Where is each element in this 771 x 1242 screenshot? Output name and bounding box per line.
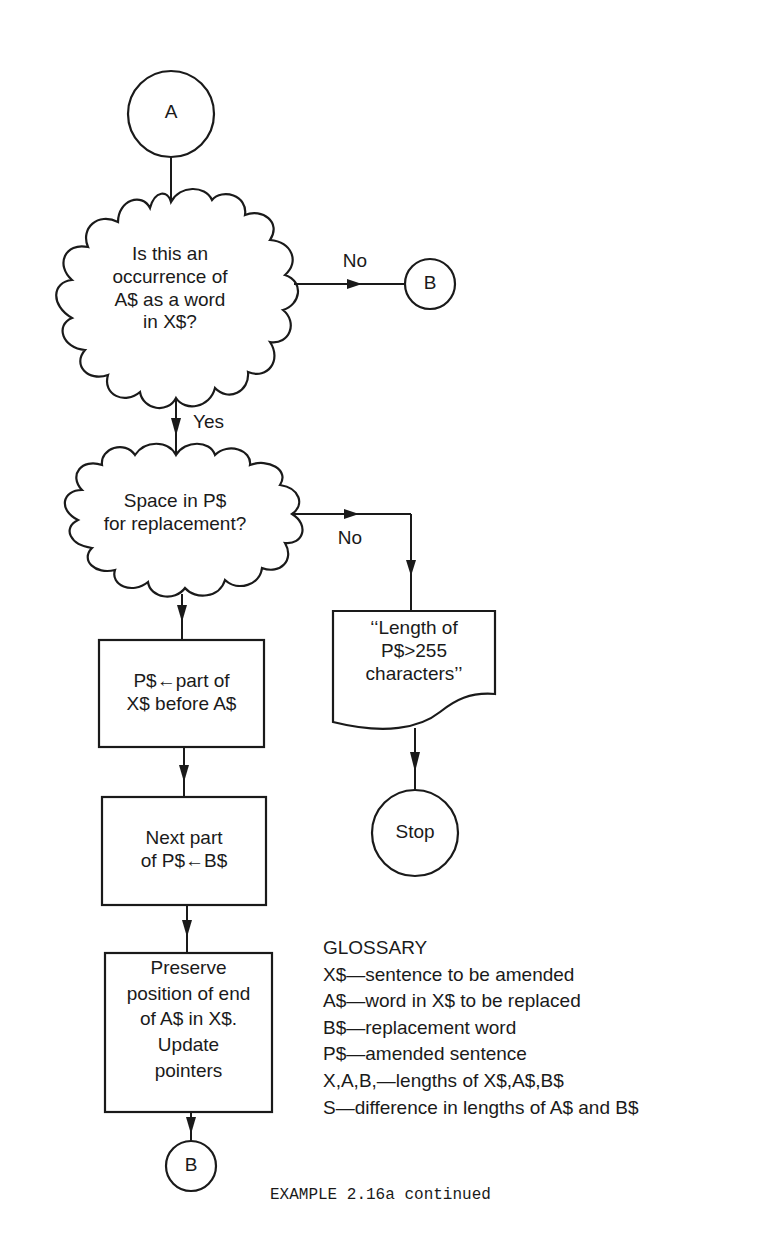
process-preserve-line: position of end	[105, 981, 272, 1007]
output-error-line: ‘‘Length of	[333, 617, 495, 640]
decision-occurrence-line: occurrence of	[90, 266, 250, 289]
connector-b-top-label: B	[415, 272, 445, 295]
edge-label-no-2: No	[330, 527, 370, 550]
terminal-stop-label: Stop	[385, 821, 445, 844]
process-preserve-line: of A$ in X$.	[105, 1006, 272, 1032]
process-preserve-line: Update	[105, 1032, 272, 1058]
process-preserve-line: Preserve	[105, 955, 272, 981]
decision-occurrence-line: Is this an	[90, 243, 250, 266]
glossary-entry: X,A,B,—lengths of X$,A$,B$	[323, 1068, 638, 1095]
edge-label-no-1: No	[335, 250, 375, 273]
process-before-text: P$←part of X$ before A$	[99, 670, 264, 716]
figure-caption: EXAMPLE 2.16a continued	[270, 1186, 491, 1204]
decision-space-text: Space in P$ for replacement?	[85, 490, 265, 536]
glossary-entry: P$—amended sentence	[323, 1041, 638, 1068]
process-preserve-text: Preserve position of end of A$ in X$. Up…	[105, 955, 272, 1083]
process-before-line: X$ before A$	[99, 693, 264, 716]
decision-space-line: for replacement?	[85, 513, 265, 536]
connector-a-label: A	[151, 101, 191, 124]
decision-occurrence-text: Is this an occurrence of A$ as a word in…	[90, 243, 250, 334]
edge-label-yes: Yes	[193, 411, 243, 434]
process-next-line: of P$←B$	[102, 850, 266, 873]
decision-occurrence-line: in X$?	[90, 311, 250, 334]
glossary-entry: S—difference in lengths of A$ and B$	[323, 1095, 638, 1122]
process-next-text: Next part of P$←B$	[102, 827, 266, 873]
decision-space-line: Space in P$	[85, 490, 265, 513]
glossary-title: GLOSSARY	[323, 935, 638, 962]
decision-occurrence-line: A$ as a word	[90, 289, 250, 312]
glossary-entry: X$—sentence to be amended	[323, 962, 638, 989]
output-error-line: P$>255	[333, 640, 495, 663]
connector-b-bottom-label: B	[176, 1154, 206, 1177]
glossary-entry: B$—replacement word	[323, 1015, 638, 1042]
process-before-line: P$←part of	[99, 670, 264, 693]
glossary: GLOSSARY X$—sentence to be amended A$—wo…	[323, 935, 638, 1121]
process-next-line: Next part	[102, 827, 266, 850]
glossary-entry: A$—word in X$ to be replaced	[323, 988, 638, 1015]
output-error-text: ‘‘Length of P$>255 characters’’	[333, 617, 495, 685]
output-error-line: characters’’	[333, 663, 495, 686]
process-preserve-line: pointers	[105, 1058, 272, 1084]
